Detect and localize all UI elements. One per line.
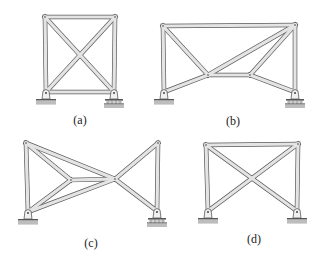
member	[45, 17, 46, 92]
member	[208, 25, 295, 75]
member	[164, 75, 208, 92]
member	[297, 144, 298, 211]
joint	[44, 16, 46, 18]
roller-support-icon	[147, 209, 167, 228]
member	[26, 143, 28, 212]
joint	[205, 144, 207, 146]
joint	[297, 143, 299, 145]
member	[206, 144, 298, 145]
member	[250, 25, 295, 75]
member	[26, 143, 115, 179]
truss-panel-d	[198, 143, 307, 224]
panel-label-d: (d)	[247, 232, 261, 247]
joint	[114, 16, 116, 18]
roller-support-icon	[285, 90, 305, 109]
pin-support-icon	[198, 209, 218, 224]
joint	[249, 74, 251, 76]
joint	[114, 178, 116, 180]
member	[114, 17, 115, 92]
joint	[70, 179, 72, 181]
member	[163, 26, 208, 75]
joint	[207, 74, 209, 76]
joint	[157, 142, 159, 144]
pin-support-icon	[287, 209, 307, 224]
member	[28, 179, 115, 212]
member	[26, 143, 71, 180]
member	[157, 143, 158, 211]
truss-panel-b	[154, 24, 305, 108]
member	[206, 145, 208, 211]
panel-label-a: (a)	[73, 113, 86, 128]
member	[163, 26, 164, 92]
pin-support-icon	[154, 90, 174, 105]
joint	[162, 25, 164, 27]
member	[115, 143, 158, 179]
joint	[294, 24, 296, 26]
member	[163, 25, 295, 26]
panel-label-b: (b)	[226, 114, 240, 129]
truss-panel-a	[36, 16, 124, 108]
truss-diagram	[0, 0, 322, 257]
panel-label-c: (c)	[84, 236, 97, 251]
joint	[25, 142, 27, 144]
truss-panel-c	[18, 142, 167, 227]
member	[115, 179, 157, 211]
member	[250, 75, 295, 92]
